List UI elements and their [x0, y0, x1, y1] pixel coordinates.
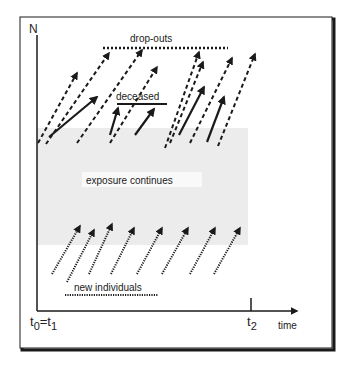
x-axis-label: time [278, 320, 297, 331]
dropouts-label: drop-outs [130, 33, 172, 44]
y-axis-label: N [29, 22, 38, 36]
exposure-label: exposure continues [86, 175, 173, 186]
cohort-exposure-diagram: N time t0=t1 t2 drop-outs deceased expos… [0, 0, 353, 367]
deceased-label: deceased [116, 91, 159, 102]
new-individuals-label: new individuals [74, 282, 142, 293]
